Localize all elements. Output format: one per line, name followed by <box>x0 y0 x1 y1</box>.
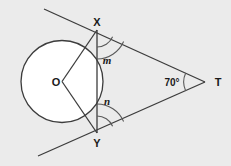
geometry-diagram-svg: X Y O T m n 70° <box>0 0 231 166</box>
label-angle-70: 70° <box>164 77 179 88</box>
label-angle-m: m <box>103 54 112 66</box>
label-angle-n: n <box>104 95 110 107</box>
angle-arc-n-outer <box>97 104 124 122</box>
label-point-x: X <box>93 16 101 28</box>
label-point-o: O <box>52 76 61 88</box>
label-point-t: T <box>215 76 222 88</box>
label-point-y: Y <box>93 137 101 149</box>
angle-arc-t <box>184 73 186 91</box>
geometry-figure: X Y O T m n 70° <box>0 0 231 166</box>
